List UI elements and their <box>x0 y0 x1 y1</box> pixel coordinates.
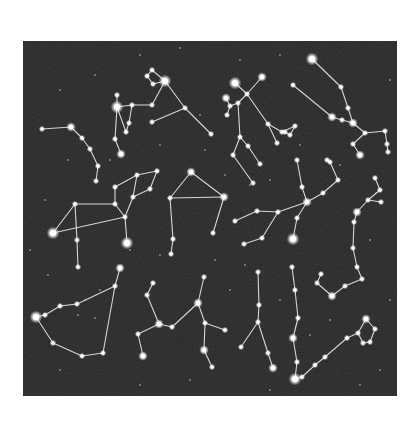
star-icon <box>226 114 229 117</box>
star-icon <box>301 186 304 189</box>
star-icon <box>330 115 335 120</box>
star-icon <box>81 355 84 358</box>
star-icon <box>364 317 369 322</box>
star-icon <box>222 195 227 200</box>
star-icon <box>356 266 359 269</box>
star-icon <box>258 304 261 307</box>
star-icon <box>151 69 154 72</box>
star-icon <box>271 366 276 371</box>
star-icon <box>95 180 98 183</box>
star-icon <box>146 294 149 297</box>
star-icon <box>294 289 297 292</box>
star-icon <box>76 303 79 306</box>
star-icon <box>124 216 127 219</box>
star-icon <box>156 170 159 173</box>
star-icon <box>290 236 296 242</box>
faint-star-icon <box>109 159 111 161</box>
star-icon <box>97 165 100 168</box>
star-icon <box>232 154 235 157</box>
star-icon <box>229 105 232 108</box>
star-icon <box>316 282 319 285</box>
faint-star-icon <box>369 239 371 241</box>
star-icon <box>74 203 77 206</box>
star-icon <box>259 163 262 166</box>
star-icon <box>203 276 206 279</box>
faint-star-icon <box>339 164 341 166</box>
star-icon <box>52 342 55 345</box>
star-icon <box>211 366 214 369</box>
star-icon <box>114 186 117 189</box>
star-icon <box>301 376 304 379</box>
star-icon <box>116 94 119 97</box>
star-icon <box>146 75 149 78</box>
star-icon <box>347 107 350 110</box>
star-icon <box>292 376 298 382</box>
star-icon <box>169 197 172 200</box>
star-icon <box>89 148 92 151</box>
star-icon <box>44 314 47 317</box>
faint-star-icon <box>269 179 271 181</box>
star-icon <box>352 247 355 250</box>
star-icon <box>289 134 292 137</box>
star-icon <box>374 328 377 331</box>
star-icon <box>202 348 207 353</box>
star-icon <box>384 130 387 133</box>
faint-star-icon <box>59 89 61 91</box>
faint-star-icon <box>179 47 181 49</box>
star-icon <box>189 170 194 175</box>
star-icon <box>294 125 297 128</box>
star-icon <box>246 93 249 96</box>
star-icon <box>322 192 325 195</box>
star-icon <box>131 104 134 107</box>
faint-star-icon <box>329 319 331 321</box>
star-icon <box>355 210 360 215</box>
star-icon <box>157 322 162 327</box>
star-icon <box>277 211 280 214</box>
faint-star-icon <box>99 289 101 291</box>
star-icon <box>172 238 175 241</box>
star-icon <box>284 131 287 134</box>
star-icon <box>252 182 255 185</box>
star-icon <box>346 337 349 340</box>
faint-star-icon <box>239 59 241 61</box>
star-icon <box>296 159 299 162</box>
faint-star-icon <box>214 259 216 261</box>
star-icon <box>69 125 74 130</box>
star-icon <box>267 352 270 355</box>
star-icon <box>114 138 117 141</box>
star-icon <box>76 239 79 242</box>
star-icon <box>33 314 39 320</box>
star-icon <box>341 119 344 122</box>
faint-star-icon <box>94 317 96 319</box>
star-icon <box>340 86 343 89</box>
star-icon <box>132 196 135 199</box>
star-icon <box>162 78 168 84</box>
star-icon <box>118 266 123 271</box>
star-icon <box>59 305 62 308</box>
star-icon <box>361 278 364 281</box>
faint-star-icon <box>159 254 161 256</box>
star-icon <box>171 326 174 329</box>
star-icon <box>240 346 243 349</box>
star-icon <box>386 143 389 146</box>
star-icon <box>351 121 356 126</box>
constellation-star-map <box>0 0 419 429</box>
star-icon <box>152 83 155 86</box>
faint-star-icon <box>67 159 69 161</box>
star-icon <box>243 243 246 246</box>
star-icon <box>292 84 295 87</box>
faint-star-icon <box>139 54 141 56</box>
star-icon <box>261 237 264 240</box>
faint-star-icon <box>199 114 201 116</box>
star-icon <box>141 354 146 359</box>
star-icon <box>379 189 382 192</box>
star-icon <box>367 199 370 202</box>
star-icon <box>114 285 117 288</box>
star-icon <box>257 321 260 324</box>
faint-star-icon <box>59 369 61 371</box>
star-icon <box>358 153 363 158</box>
star-icon <box>256 210 259 213</box>
faint-star-icon <box>44 199 46 201</box>
faint-star-icon <box>309 334 311 336</box>
star-icon <box>224 96 229 101</box>
